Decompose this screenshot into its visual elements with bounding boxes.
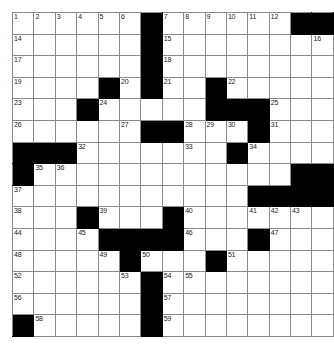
crossword-cell[interactable] [269,56,290,78]
crossword-cell[interactable] [184,164,205,186]
crossword-cell[interactable] [162,142,183,164]
crossword-cell[interactable] [291,99,312,121]
crossword-cell[interactable] [205,142,226,164]
crossword-cell[interactable] [34,56,55,78]
crossword-cell[interactable]: 6 [119,13,140,35]
crossword-cell[interactable]: 54 [162,272,183,294]
crossword-cell[interactable] [291,34,312,56]
crossword-cell[interactable]: 45 [77,228,98,250]
crossword-cell[interactable]: 35 [34,164,55,186]
crossword-cell[interactable] [77,164,98,186]
crossword-cell[interactable]: 59 [162,315,183,337]
crossword-cell[interactable]: 41 [248,207,269,229]
crossword-cell[interactable] [55,120,76,142]
crossword-cell[interactable]: 7 [162,13,183,35]
crossword-cell[interactable] [312,228,334,250]
crossword-cell[interactable] [226,272,247,294]
crossword-cell[interactable] [141,185,162,207]
crossword-cell[interactable] [77,185,98,207]
crossword-cell[interactable]: 49 [98,250,119,272]
crossword-cell[interactable] [312,207,334,229]
crossword-cell[interactable] [141,207,162,229]
crossword-cell[interactable]: 34 [248,142,269,164]
crossword-cell[interactable] [119,315,140,337]
crossword-cell[interactable] [205,228,226,250]
crossword-cell[interactable] [77,250,98,272]
crossword-cell[interactable] [55,272,76,294]
crossword-cell[interactable] [55,250,76,272]
crossword-cell[interactable] [184,34,205,56]
crossword-cell[interactable]: 21 [162,77,183,99]
crossword-cell[interactable] [98,293,119,315]
crossword-cell[interactable]: 30 [226,120,247,142]
crossword-cell[interactable] [269,272,290,294]
crossword-cell[interactable] [98,185,119,207]
crossword-cell[interactable]: 20 [119,77,140,99]
crossword-cell[interactable] [98,272,119,294]
crossword-cell[interactable] [119,99,140,121]
crossword-cell[interactable]: 4 [77,13,98,35]
crossword-cell[interactable] [269,293,290,315]
crossword-cell[interactable]: 40 [184,207,205,229]
crossword-cell[interactable] [34,293,55,315]
crossword-cell[interactable] [34,99,55,121]
crossword-cell[interactable] [226,185,247,207]
crossword-cell[interactable]: 37 [13,185,34,207]
crossword-cell[interactable] [98,315,119,337]
crossword-cell[interactable]: 43 [291,207,312,229]
crossword-cell[interactable] [162,164,183,186]
crossword-cell[interactable] [269,142,290,164]
crossword-cell[interactable] [312,77,334,99]
crossword-cell[interactable] [184,185,205,207]
crossword-cell[interactable]: 22 [226,77,247,99]
crossword-cell[interactable] [269,315,290,337]
crossword-cell[interactable]: 15 [162,34,183,56]
crossword-cell[interactable]: 33 [184,142,205,164]
crossword-cell[interactable] [55,185,76,207]
crossword-cell[interactable] [248,250,269,272]
crossword-cell[interactable] [205,315,226,337]
crossword-cell[interactable]: 29 [205,120,226,142]
crossword-cell[interactable] [34,34,55,56]
crossword-cell[interactable] [162,250,183,272]
crossword-cell[interactable]: 52 [13,272,34,294]
crossword-cell[interactable] [205,185,226,207]
crossword-cell[interactable] [205,164,226,186]
crossword-cell[interactable] [77,272,98,294]
crossword-cell[interactable]: 3 [55,13,76,35]
crossword-cell[interactable] [205,34,226,56]
crossword-cell[interactable] [291,272,312,294]
crossword-cell[interactable] [248,77,269,99]
crossword-cell[interactable]: 26 [13,120,34,142]
crossword-cell[interactable] [184,250,205,272]
crossword-cell[interactable]: 28 [184,120,205,142]
crossword-cell[interactable] [119,164,140,186]
crossword-cell[interactable] [291,120,312,142]
crossword-cell[interactable] [226,293,247,315]
crossword-cell[interactable] [55,56,76,78]
crossword-cell[interactable] [205,56,226,78]
crossword-cell[interactable] [291,56,312,78]
crossword-cell[interactable] [77,315,98,337]
crossword-cell[interactable] [119,293,140,315]
crossword-cell[interactable] [226,34,247,56]
crossword-cell[interactable] [77,77,98,99]
crossword-cell[interactable] [248,272,269,294]
crossword-cell[interactable] [98,120,119,142]
crossword-cell[interactable] [312,56,334,78]
crossword-cell[interactable] [98,142,119,164]
crossword-cell[interactable]: 55 [184,272,205,294]
crossword-cell[interactable] [55,293,76,315]
crossword-cell[interactable]: 39 [98,207,119,229]
crossword-cell[interactable] [34,77,55,99]
crossword-cell[interactable]: 58 [34,315,55,337]
crossword-cell[interactable] [248,34,269,56]
crossword-cell[interactable] [226,164,247,186]
crossword-cell[interactable]: 38 [13,207,34,229]
crossword-cell[interactable]: 57 [162,293,183,315]
crossword-cell[interactable]: 44 [13,228,34,250]
crossword-cell[interactable] [269,77,290,99]
crossword-cell[interactable]: 53 [119,272,140,294]
crossword-cell[interactable] [226,228,247,250]
crossword-cell[interactable]: 48 [13,250,34,272]
